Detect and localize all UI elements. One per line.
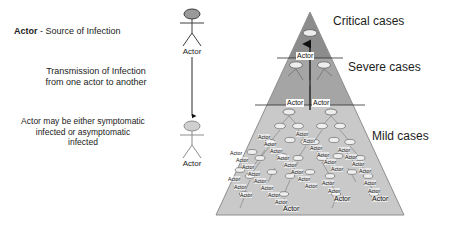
- mild-actor-label: Actor: [364, 180, 376, 186]
- mild-actor-label: Actor: [331, 166, 343, 172]
- mild-actor-label: Actor: [368, 188, 380, 194]
- diagram-canvas: Actor - Source of Infection Transmission…: [0, 0, 460, 233]
- mild-actor-label: Actor: [242, 164, 254, 170]
- mild-actor-label: Actor: [268, 192, 280, 198]
- mild-actor-label: Actor: [254, 178, 266, 184]
- mild-actor-label: Actor: [248, 171, 260, 177]
- diagram-vector-layer: [0, 0, 460, 233]
- mild-actor-label: Actor: [324, 159, 336, 165]
- mild-actor-label: Actor: [284, 162, 296, 168]
- legend-actor-bottom-label: Actor: [170, 159, 214, 168]
- band-critical: [200, 0, 440, 58]
- mild-actor-label: Actor: [236, 157, 248, 163]
- mild-actor-label: Actor: [230, 150, 242, 156]
- mild-actor-label: Actor: [264, 141, 276, 147]
- mild-actor-label: Actor: [372, 196, 388, 202]
- mild-actor-label: Actor: [296, 131, 308, 137]
- severe-actor-label-left: Actor: [286, 99, 304, 107]
- mild-actor-label: Actor: [338, 147, 350, 153]
- legend-actor-top-label: Actor: [170, 47, 214, 56]
- mild-actor-label: Actor: [352, 161, 364, 167]
- mild-actor-label: Actor: [228, 176, 240, 182]
- mild-actor-label: Actor: [234, 184, 246, 190]
- mild-actor-label: Actor: [334, 196, 350, 202]
- mild-actor-label: Actor: [258, 134, 270, 140]
- mild-actor-label: Actor: [328, 188, 340, 194]
- legend-actor-symptomatic: [180, 9, 204, 46]
- severe-actor-label-right: Actor: [312, 99, 330, 107]
- pyramid-apex-actor: [303, 30, 317, 37]
- mild-actor-label: Actor: [303, 138, 315, 144]
- mild-actor-label: Actor: [345, 154, 357, 160]
- mild-actor-label: Actor: [310, 145, 322, 151]
- mild-actor-label: Actor: [322, 180, 334, 186]
- mild-actor-label: Actor: [305, 183, 317, 189]
- mild-actor-label: Actor: [240, 192, 252, 198]
- mild-actor-label: Actor: [317, 152, 329, 158]
- mild-actor-label: Actor: [359, 168, 371, 174]
- mild-actor-label: Actor: [261, 185, 273, 191]
- mild-actor-label: Actor: [270, 148, 282, 154]
- mild-actor-label: Actor: [298, 176, 310, 182]
- mild-actor-label: Actor: [277, 155, 289, 161]
- mild-actor-label: Actor: [283, 206, 299, 212]
- apex-actor-label: Actor: [296, 52, 314, 60]
- legend-actor-asymptomatic: [180, 121, 204, 158]
- mild-actor-label: Actor: [291, 169, 303, 175]
